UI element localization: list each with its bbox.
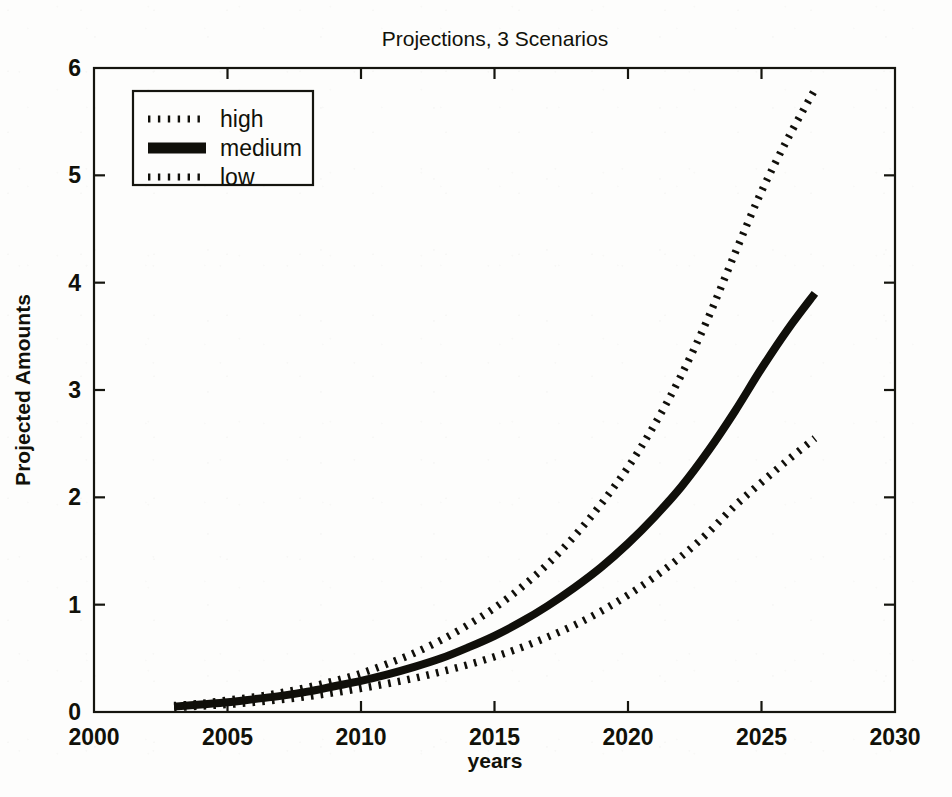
y-tick-label-1: 1 [68, 592, 81, 618]
legend-label-low: low [220, 164, 255, 190]
legend-label-high: high [220, 106, 263, 132]
series-line-low [174, 438, 815, 707]
projections-line-chart: Projections, 3 Scenarios 200020052010201… [0, 0, 952, 797]
chart-title: Projections, 3 Scenarios [382, 27, 608, 50]
x-tick-label-2010: 2010 [335, 724, 386, 750]
x-tick-label-2020: 2020 [602, 724, 653, 750]
x-tick-label-2015: 2015 [469, 724, 520, 750]
legend: highmediumlow [133, 91, 313, 190]
y-tick-label-2: 2 [68, 484, 81, 510]
figure-canvas: Projections, 3 Scenarios 200020052010201… [0, 0, 952, 797]
y-axis-tick-labels: 0123456 [68, 55, 81, 725]
legend-label-medium: medium [220, 135, 302, 161]
y-tick-label-4: 4 [68, 270, 81, 296]
x-tick-label-2000: 2000 [68, 724, 119, 750]
x-tick-label-2005: 2005 [202, 724, 253, 750]
x-axis-title: years [468, 749, 523, 772]
x-tick-label-2025: 2025 [736, 724, 787, 750]
y-tick-label-5: 5 [68, 162, 81, 188]
y-tick-label-0: 0 [68, 699, 81, 725]
series-line-medium [174, 293, 815, 706]
y-axis-title: Projected Amounts [11, 294, 34, 486]
x-axis-tick-labels: 2000200520102015202020252030 [68, 724, 920, 750]
x-tick-label-2030: 2030 [869, 724, 920, 750]
y-axis-ticks [94, 175, 895, 604]
y-tick-label-3: 3 [68, 377, 81, 403]
y-tick-label-6: 6 [68, 55, 81, 81]
